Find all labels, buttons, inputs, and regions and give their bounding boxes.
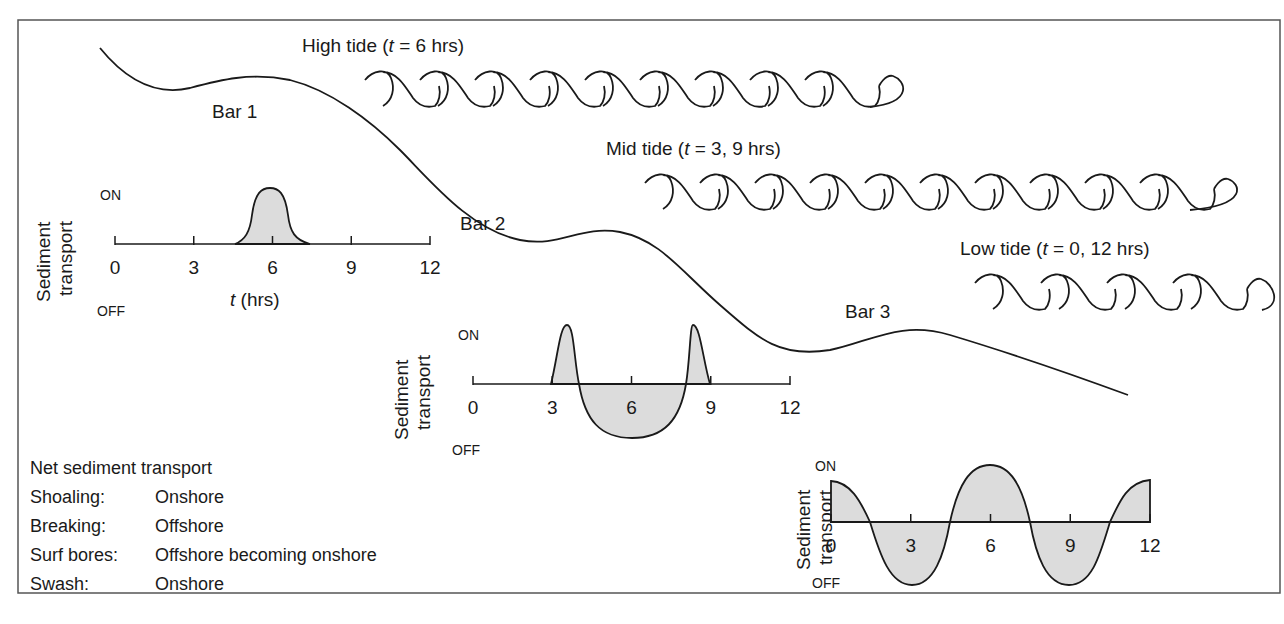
legend-value: Offshore becoming onshore xyxy=(155,545,377,565)
tick-label: 3 xyxy=(905,535,916,556)
legend-value: Onshore xyxy=(155,574,224,594)
wave-crest-icon xyxy=(640,71,715,106)
low-tide-waves xyxy=(975,274,1274,310)
transport-curve xyxy=(235,188,310,244)
y-title-line2: transport xyxy=(413,354,434,430)
legend-value: Offshore xyxy=(155,516,224,536)
wave-crest-icon xyxy=(475,71,550,106)
tick-label: 12 xyxy=(779,397,800,418)
legend-key: Swash: xyxy=(30,574,89,594)
on-label: ON xyxy=(815,458,836,474)
tick-label: 6 xyxy=(985,535,996,556)
y-title-line1: Sediment xyxy=(33,221,54,302)
wave-crest-icon xyxy=(1041,274,1116,309)
wave-crest-icon xyxy=(1140,174,1215,209)
tick-label: 9 xyxy=(1065,535,1076,556)
wave-tail xyxy=(1247,279,1274,310)
transport-curve xyxy=(831,465,1150,585)
legend-key: Surf bores: xyxy=(30,545,118,565)
x-axis-title: t (hrs) xyxy=(230,289,280,310)
y-title-line1: Sediment xyxy=(793,489,814,570)
sediment-transport-diagram: High tide (t = 6 hrs) Mid tide (t = 3, 9… xyxy=(0,0,1284,624)
off-label: OFF xyxy=(97,303,125,319)
x-ticks: 036912 xyxy=(468,376,801,418)
tick-label: 6 xyxy=(626,397,637,418)
wave-crest-icon xyxy=(750,71,825,106)
tick-label: 3 xyxy=(188,257,199,278)
wave-crest-icon xyxy=(975,274,1050,309)
tick-label: 12 xyxy=(1139,535,1160,556)
wave-crest-icon xyxy=(645,174,720,209)
wave-crest-icon xyxy=(755,174,830,209)
off-label: OFF xyxy=(812,575,840,591)
wave-crest-icon xyxy=(920,174,995,209)
tick-label: 3 xyxy=(547,397,558,418)
legend-value: Onshore xyxy=(155,487,224,507)
on-label: ON xyxy=(100,187,121,203)
mid-tide-waves xyxy=(645,174,1237,210)
wave-crest-icon xyxy=(1173,274,1248,309)
on-label: ON xyxy=(458,327,479,343)
legend-key: Breaking: xyxy=(30,516,106,536)
wave-crest-icon xyxy=(1030,174,1105,209)
tick-label: 0 xyxy=(110,257,121,278)
y-title-line2: transport xyxy=(55,220,76,296)
high-tide-label: High tide (t = 6 hrs) xyxy=(302,35,464,56)
plot-bar-3: Sediment transport ON OFF 036912 xyxy=(793,458,1161,591)
transport-curve xyxy=(551,325,710,438)
bar-1-label: Bar 1 xyxy=(212,101,257,122)
wave-crest-icon xyxy=(810,174,885,209)
net-transport-legend: Net sediment transport Shoaling: Onshore… xyxy=(30,458,377,594)
wave-crest-icon xyxy=(695,71,770,106)
plot-bar-2: Sediment transport ON OFF 036912 xyxy=(391,325,801,458)
tick-label: 6 xyxy=(267,257,278,278)
tick-label: 12 xyxy=(419,257,440,278)
tick-label: 9 xyxy=(346,257,357,278)
tick-label: 0 xyxy=(468,397,479,418)
wave-tail xyxy=(870,76,903,107)
wave-crest-icon xyxy=(365,71,440,106)
wave-crest-icon xyxy=(585,71,660,106)
wave-crest-icon xyxy=(700,174,775,209)
legend-title: Net sediment transport xyxy=(30,458,212,478)
tick-label: 0 xyxy=(826,535,837,556)
wave-crest-icon xyxy=(865,174,940,209)
mid-tide-label: Mid tide (t = 3, 9 hrs) xyxy=(606,138,781,159)
tick-label: 9 xyxy=(705,397,716,418)
wave-crest-icon xyxy=(1085,174,1160,209)
wave-crest-icon xyxy=(1107,274,1182,309)
wave-crest-icon xyxy=(530,71,605,106)
bar-2-label: Bar 2 xyxy=(460,213,505,234)
high-tide-waves xyxy=(365,71,903,107)
wave-crest-icon xyxy=(420,71,495,106)
bar-3-label: Bar 3 xyxy=(845,301,890,322)
plot-bar-1: Sediment transport ON OFF 036912 t (hrs) xyxy=(33,187,441,319)
wave-crest-icon xyxy=(805,71,880,106)
wave-crest-icon xyxy=(975,174,1050,209)
legend-key: Shoaling: xyxy=(30,487,105,507)
low-tide-label: Low tide (t = 0, 12 hrs) xyxy=(960,238,1150,259)
off-label: OFF xyxy=(452,442,480,458)
y-title-line1: Sediment xyxy=(391,359,412,440)
